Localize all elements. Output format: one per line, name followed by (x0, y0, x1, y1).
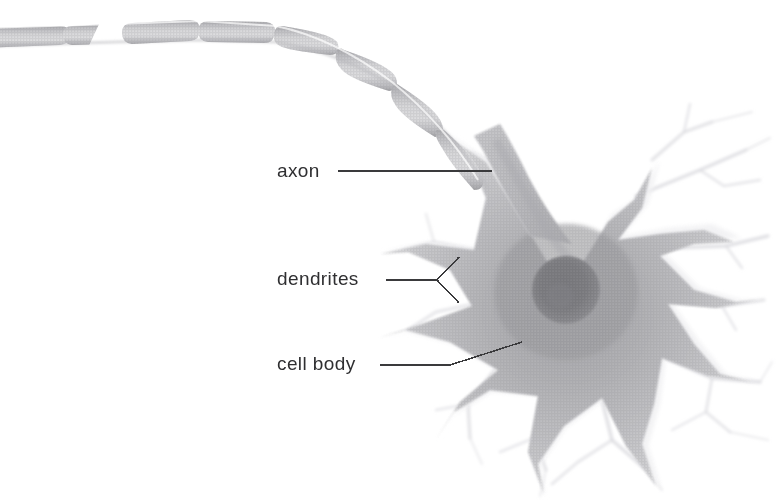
label-cell-body: cell body (277, 354, 356, 373)
neuron-diagram-figure: axon dendrites cell body (0, 0, 776, 503)
nucleolus (547, 283, 573, 309)
neuron-illustration (0, 0, 776, 503)
label-axon: axon (277, 161, 320, 180)
myelinated-axon (0, 20, 488, 190)
label-dendrites: dendrites (277, 269, 359, 288)
myelin-segment (274, 26, 339, 55)
nucleus (532, 256, 600, 324)
